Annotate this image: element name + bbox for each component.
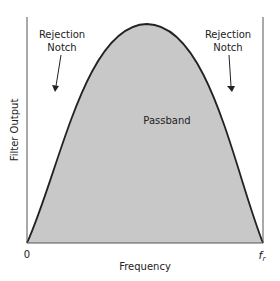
left-notch-arrowhead <box>52 85 59 92</box>
x-axis-label: Frequency <box>119 261 171 272</box>
right-notch-arrow <box>229 55 231 86</box>
x-tick-fr: fr <box>259 249 267 263</box>
y-axis-label: Filter Output <box>9 99 20 162</box>
right-notch-label-line1: Rejection <box>205 29 251 40</box>
filter-diagram: Rejection Notch Rejection Notch Passband… <box>0 0 280 281</box>
x-tick-zero: 0 <box>24 249 30 260</box>
left-notch-label-line1: Rejection <box>39 29 85 40</box>
passband-label: Passband <box>143 115 190 126</box>
right-notch-arrowhead <box>227 86 235 92</box>
right-notch-label-line2: Notch <box>213 42 242 53</box>
left-notch-arrow <box>56 55 61 86</box>
left-notch-label-line2: Notch <box>47 42 76 53</box>
